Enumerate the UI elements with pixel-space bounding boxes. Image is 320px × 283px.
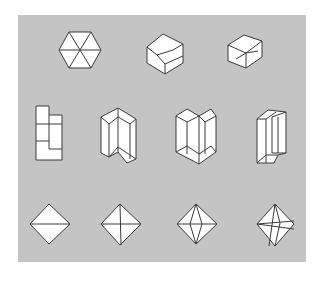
octahedron-vertex-view-icon [100, 203, 142, 246]
cube-tilted-view-icon [226, 33, 264, 69]
octahedron-rotated-view-icon [176, 203, 218, 245]
l-prism-v-notch-view-icon [175, 104, 217, 166]
l-prism-front-view-icon [35, 105, 63, 161]
octahedron-edge-view-icon [29, 203, 71, 245]
l-prism-narrow-view-icon [256, 109, 288, 165]
octahedron-general-view-icon [256, 203, 296, 247]
hexagon-six-triangles-icon [58, 31, 102, 69]
l-prism-oblique-view-1-icon [100, 107, 138, 165]
cube-corner-view-icon [145, 33, 185, 75]
